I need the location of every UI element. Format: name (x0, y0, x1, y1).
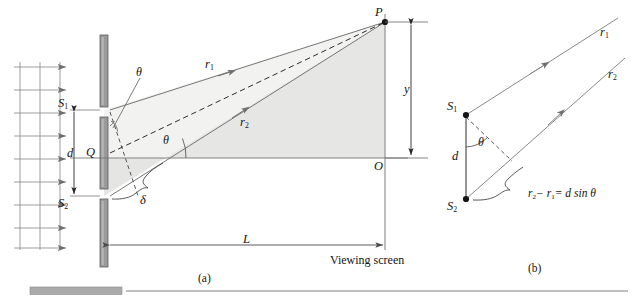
label-ray-r1-subscript: 1 (210, 63, 214, 72)
label-slit-s1-subscript: 1 (64, 102, 68, 111)
shaded-beam-region (104, 22, 385, 196)
panel-b-label-slit-separation-d: d (452, 150, 458, 163)
double-slit-figure: P O d Q S1 S2 r1 r2 θ θ δ L y Viewing sc… (0, 0, 644, 301)
panel-b-label-ray-r1-subscript: 1 (605, 31, 609, 40)
label-point-P: P (375, 6, 383, 19)
label-theta-upper: θ (136, 66, 142, 78)
panel-b-label-slit-s2: S2 (447, 200, 457, 214)
caption-color-swatch (30, 287, 122, 295)
label-path-difference-delta: δ (140, 194, 146, 207)
figure-canvas (0, 0, 644, 301)
slit-leader-lines (70, 110, 100, 196)
panel-b-label-slit-s1-subscript: 1 (453, 105, 457, 114)
panel-b-label-ray-r1: r1 (600, 26, 609, 40)
panel-b-path-difference-equation: r2− r1= d sin θ (528, 188, 596, 201)
label-slit-separation-d: d (67, 147, 73, 160)
label-origin-O: O (374, 160, 383, 173)
panel-b-label-ray-r2: r2 (608, 68, 617, 82)
bottom-rule (30, 287, 628, 295)
panel-b-label-theta: θ (478, 136, 484, 148)
label-ray-r1: r1 (205, 58, 214, 72)
panel-b-label-slit-s1: S1 (447, 100, 457, 114)
label-viewing-screen: Viewing screen (330, 254, 404, 266)
barrier-with-slits (100, 35, 108, 267)
panel-b-dashed-perpendicular (466, 117, 512, 161)
barrier-segment-bottom (100, 199, 108, 267)
equation-rhs: = d sin θ (555, 187, 596, 199)
barrier-segment-top (100, 35, 108, 107)
caption-panel-a: (a) (198, 273, 211, 285)
label-screen-distance-L: L (243, 233, 250, 246)
panel-b-label-slit-s2-subscript: 2 (453, 205, 457, 214)
panel-b-ray-r1 (466, 18, 618, 115)
label-slit-s2: S2 (58, 197, 68, 211)
label-slit-s1: S1 (58, 97, 68, 111)
barrier-segment-middle (100, 117, 108, 189)
label-slit-s2-subscript: 2 (64, 202, 68, 211)
panel-b-label-ray-r2-subscript: 2 (613, 73, 617, 82)
equation-minus-r1: − r (536, 187, 551, 199)
panel-b-ray-r2 (466, 58, 625, 199)
label-transverse-position-y: y (404, 83, 410, 96)
panel-b-brace (473, 167, 523, 200)
label-theta-at-Q: θ (163, 134, 169, 146)
label-midpoint-Q: Q (86, 146, 95, 159)
label-ray-r2-subscript: 2 (245, 121, 249, 130)
label-ray-r2: r2 (240, 116, 249, 130)
caption-panel-b: (b) (528, 263, 541, 275)
